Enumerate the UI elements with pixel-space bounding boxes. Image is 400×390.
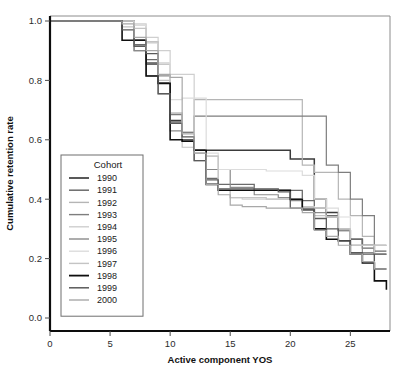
legend-item-1998[interactable]: 1998	[62, 270, 142, 282]
legend-label: 1990	[97, 173, 117, 183]
legend-title: Cohort	[94, 159, 123, 170]
legend-item-1993[interactable]: 1993	[62, 209, 142, 221]
legend-label: 1991	[97, 185, 117, 195]
y-tick-label: 0.6	[29, 134, 42, 145]
x-tick-label: 0	[47, 338, 52, 349]
y-tick-label: 0.0	[29, 312, 42, 323]
x-tick-label: 15	[225, 338, 236, 349]
y-tick-label: 1.0	[29, 15, 42, 26]
legend-label: 1993	[97, 210, 117, 220]
x-tick-label: 25	[345, 338, 356, 349]
x-tick-label: 20	[285, 338, 296, 349]
x-axis-title: Active component YOS	[168, 354, 273, 365]
legend-label: 1994	[97, 222, 117, 232]
legend-item-1990[interactable]: 1990	[62, 172, 142, 184]
legend-item-1992[interactable]: 1992	[62, 196, 142, 208]
legend-item-1996[interactable]: 1996	[62, 245, 142, 257]
legend-label: 1998	[97, 271, 117, 281]
y-tick-label: 0.2	[29, 253, 42, 264]
legend-item-2000[interactable]: 2000	[62, 294, 142, 306]
legend-label: 1997	[97, 259, 117, 269]
figure-container: 0.00.20.40.60.81.00510152025Active compo…	[0, 0, 400, 390]
y-tick-label: 0.8	[29, 75, 42, 86]
legend-label: 1995	[97, 234, 117, 244]
legend-item-1997[interactable]: 1997	[62, 257, 142, 269]
legend-label: 1996	[97, 246, 117, 256]
y-axis-title: Cumulative retention rate	[4, 116, 15, 231]
legend-item-1991[interactable]: 1991	[62, 184, 142, 196]
x-tick-label: 5	[107, 338, 112, 349]
legend-item-1994[interactable]: 1994	[62, 221, 142, 233]
x-tick-label: 10	[165, 338, 176, 349]
legend-label: 2000	[97, 295, 117, 305]
retention-chart: 0.00.20.40.60.81.00510152025Active compo…	[0, 0, 400, 390]
legend-label: 1999	[97, 283, 117, 293]
legend-item-1999[interactable]: 1999	[62, 282, 142, 294]
y-tick-label: 0.4	[29, 194, 42, 205]
legend: Cohort1990199119921993199419951996199719…	[61, 155, 143, 316]
legend-label: 1992	[97, 198, 117, 208]
legend-item-1995[interactable]: 1995	[62, 233, 142, 245]
